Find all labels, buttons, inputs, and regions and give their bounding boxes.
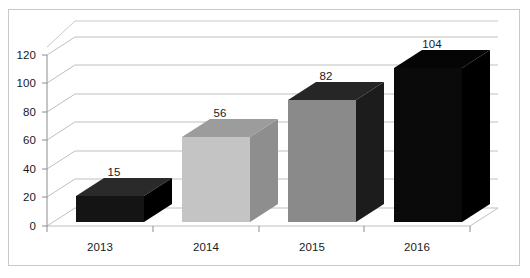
bar-2016-side <box>462 50 490 222</box>
bar-2014-front <box>182 137 250 222</box>
y-tick-label-40: 40 <box>10 163 36 175</box>
floor-left-edge <box>47 208 75 226</box>
y-tick-label-80: 80 <box>10 106 36 118</box>
y-axis <box>42 55 47 226</box>
bar-2014[interactable] <box>182 119 278 222</box>
y-tick-label-0: 0 <box>10 220 36 232</box>
bar-2015[interactable] <box>288 82 384 222</box>
bar-2013-front <box>76 196 144 222</box>
x-category-label-2015: 2015 <box>272 241 352 253</box>
bar-2016[interactable] <box>394 50 490 222</box>
x-category-label-2014: 2014 <box>166 241 246 253</box>
data-label-2014: 56 <box>200 107 240 119</box>
bar-2016-front <box>394 68 462 222</box>
bar-2015-front <box>288 100 356 222</box>
bar-2015-side <box>356 82 384 222</box>
y-tick-label-60: 60 <box>10 134 36 146</box>
y-tick-label-20: 20 <box>10 191 36 203</box>
chart-container: 120 100 80 60 40 20 0 2013 2014 2015 201… <box>0 0 530 278</box>
bar-2014-side <box>250 119 278 222</box>
x-category-label-2016: 2016 <box>377 241 457 253</box>
data-label-2016: 104 <box>412 38 452 50</box>
bar-2013[interactable] <box>76 178 172 222</box>
x-category-label-2013: 2013 <box>60 241 140 253</box>
y-tick-label-100: 100 <box>10 77 36 89</box>
data-label-2015: 82 <box>306 70 346 82</box>
y-tick-label-120: 120 <box>10 49 36 61</box>
data-label-2013: 15 <box>94 166 134 178</box>
x-axis-ticks <box>47 226 470 232</box>
